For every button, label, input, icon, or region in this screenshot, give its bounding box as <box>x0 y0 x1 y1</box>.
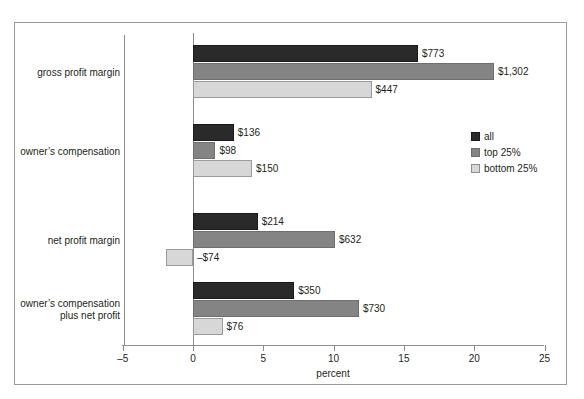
x-axis-tick <box>123 345 124 351</box>
bar-0 <box>193 213 258 230</box>
category-label-line: gross profit margin <box>0 67 120 79</box>
bar-value-label: $350 <box>298 282 320 299</box>
x-axis-tick-label: 20 <box>469 353 480 364</box>
x-axis-tick <box>404 345 405 351</box>
bar-2 <box>193 318 223 335</box>
bar-1 <box>193 300 359 317</box>
legend-item[interactable]: all <box>471 128 566 144</box>
x-axis-tick-label: 25 <box>539 353 550 364</box>
legend-item[interactable]: top 25% <box>471 144 566 160</box>
bar-value-label: $773 <box>422 45 444 62</box>
x-axis-tick-label: 5 <box>261 353 267 364</box>
x-axis-title: percent <box>316 368 349 379</box>
category-label-line: owner’s compensation <box>0 298 120 310</box>
bar-0 <box>193 282 294 299</box>
legend-swatch-top-25 <box>471 148 480 157</box>
legend-item-label: all <box>484 131 494 142</box>
bar-value-label: $76 <box>227 318 244 335</box>
category-label-line: plus net profit <box>0 310 120 322</box>
bar-value-label: $730 <box>363 300 385 317</box>
x-axis-tick <box>193 345 194 351</box>
bar-2 <box>166 249 193 266</box>
x-axis-tick <box>545 345 546 351</box>
bar-1 <box>193 142 215 159</box>
legend-item-label: top 25% <box>484 147 521 158</box>
bar-value-label: $1,302 <box>498 63 529 80</box>
bar-1 <box>193 63 494 80</box>
bar-2 <box>193 81 372 98</box>
bar-value-label: $632 <box>339 231 361 248</box>
bar-value-label: $98 <box>219 142 236 159</box>
category-label: owner’s compensationplus net profit <box>0 298 120 322</box>
bar-value-label: –$74 <box>197 249 219 266</box>
bar-0 <box>193 45 418 62</box>
category-label: owner’s compensation <box>0 146 120 158</box>
legend-item[interactable]: bottom 25% <box>471 160 566 176</box>
bar-value-label: $150 <box>256 160 278 177</box>
bar-2 <box>193 160 252 177</box>
category-label: gross profit margin <box>0 67 120 79</box>
x-axis-tick-label: 15 <box>398 353 409 364</box>
x-axis-tick-label: 10 <box>328 353 339 364</box>
x-axis-tick <box>334 345 335 351</box>
x-axis-tick <box>474 345 475 351</box>
bar-0 <box>193 124 234 141</box>
category-label-line: owner’s compensation <box>0 146 120 158</box>
bar-value-label: $136 <box>238 124 260 141</box>
legend-swatch-all <box>471 132 480 141</box>
legend-item-label: bottom 25% <box>484 163 537 174</box>
x-axis-tick-label: 0 <box>190 353 196 364</box>
x-axis-tick <box>263 345 264 351</box>
bar-value-label: $447 <box>376 81 398 98</box>
category-label-line: net profit margin <box>0 235 120 247</box>
legend-swatch-bottom-25 <box>471 164 480 173</box>
bar-value-label: $214 <box>262 213 284 230</box>
bar-1 <box>193 231 335 248</box>
chart-figure: –50510152025 percent gross profit margin… <box>0 0 584 399</box>
category-label: net profit margin <box>0 235 120 247</box>
x-axis-tick-label: –5 <box>117 353 128 364</box>
chart-legend: alltop 25%bottom 25% <box>471 128 566 176</box>
category-axis-line <box>124 35 125 345</box>
chart-plot-area: –50510152025 percent gross profit margin… <box>0 0 584 399</box>
